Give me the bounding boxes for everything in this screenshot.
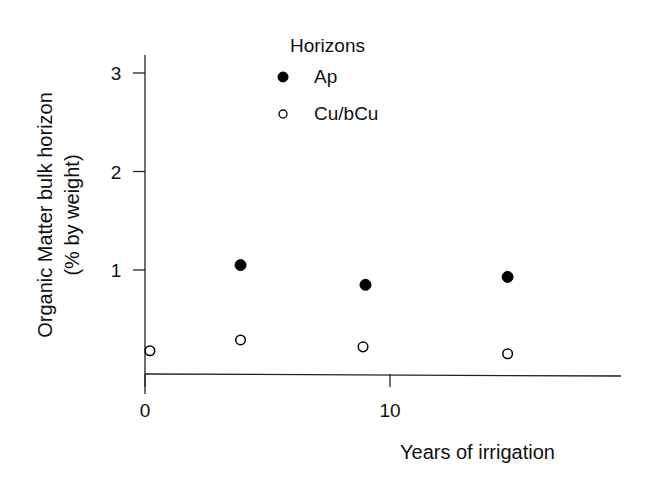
legend-label: Cu/bCu [314,103,378,124]
point-ap [235,260,246,271]
legend: Horizons ApCu/bCu [278,35,378,124]
x-tick-label: 0 [140,400,151,421]
point-ap [502,271,513,282]
point-cu-bcu [358,342,368,352]
x-tick-label: 10 [379,400,400,421]
data-points [145,260,513,359]
legend-title: Horizons [290,35,365,56]
legend-label: Ap [314,66,337,87]
point-cu-bcu [145,346,155,356]
point-cu-bcu [503,349,513,359]
y-tick-label: 3 [111,63,122,84]
scatter-chart: 123 010 Years of irrigation Organic Matt… [0,0,651,487]
y-tick-label: 1 [111,260,122,281]
y-axis-label-line1: Organic Matter bulk horizon [34,92,56,338]
x-axis-label: Years of irrigation [400,441,555,463]
point-ap [360,279,371,290]
legend-marker-icon [279,110,287,118]
x-axis: 010 [140,374,621,421]
y-tick-label: 2 [111,162,122,183]
y-axis-label-line2: (% by weight) [61,154,83,275]
legend-marker-icon [278,72,288,82]
point-cu-bcu [236,335,246,345]
y-axis: 123 [111,55,145,394]
